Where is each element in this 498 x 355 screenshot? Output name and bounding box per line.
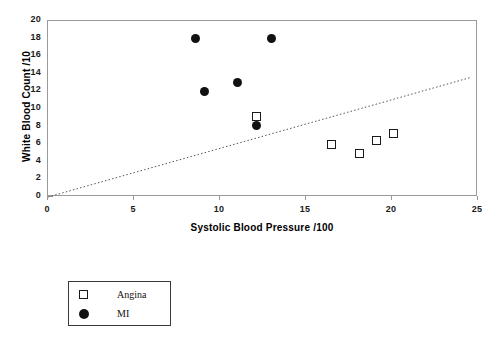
x-tick-label: 20 <box>371 205 411 214</box>
x-tick-mark <box>477 196 478 200</box>
x-tick-mark <box>219 196 220 200</box>
x-axis-ticks: 0510152025 <box>47 196 477 220</box>
x-axis-title: Systolic Blood Pressure /100 <box>47 222 477 233</box>
x-tick-label: 25 <box>457 205 497 214</box>
data-point-mi <box>200 87 209 96</box>
data-point-angina <box>252 112 261 121</box>
plot-area <box>47 20 477 196</box>
x-tick-label: 10 <box>199 205 239 214</box>
legend-label-angina: Angina <box>117 289 146 300</box>
x-tick-mark <box>305 196 306 200</box>
trendline <box>48 21 478 197</box>
open-square-icon <box>79 290 88 299</box>
filled-circle-icon <box>79 309 89 319</box>
y-axis-title: White Blood Count /10 <box>21 27 32 187</box>
x-tick-mark <box>133 196 134 200</box>
data-point-mi <box>252 121 261 130</box>
x-tick-label: 15 <box>285 205 325 214</box>
x-tick-mark <box>391 196 392 200</box>
x-tick-label: 5 <box>113 205 153 214</box>
legend-entry-mi: MI <box>69 303 172 325</box>
data-point-angina <box>355 149 364 158</box>
y-tick-label: 20 <box>11 15 41 24</box>
data-point-angina <box>389 129 398 138</box>
x-tick-label: 0 <box>27 205 67 214</box>
legend-label-mi: MI <box>117 308 129 319</box>
data-point-angina <box>372 136 381 145</box>
data-point-angina <box>327 140 336 149</box>
y-tick-label: 0 <box>11 191 41 200</box>
scatter-plot-figure: 02468101214161820 0510152025 Systolic Bl… <box>0 0 498 355</box>
legend-box: Angina MI <box>68 281 171 326</box>
x-tick-mark <box>47 196 48 200</box>
data-point-mi <box>233 78 242 87</box>
